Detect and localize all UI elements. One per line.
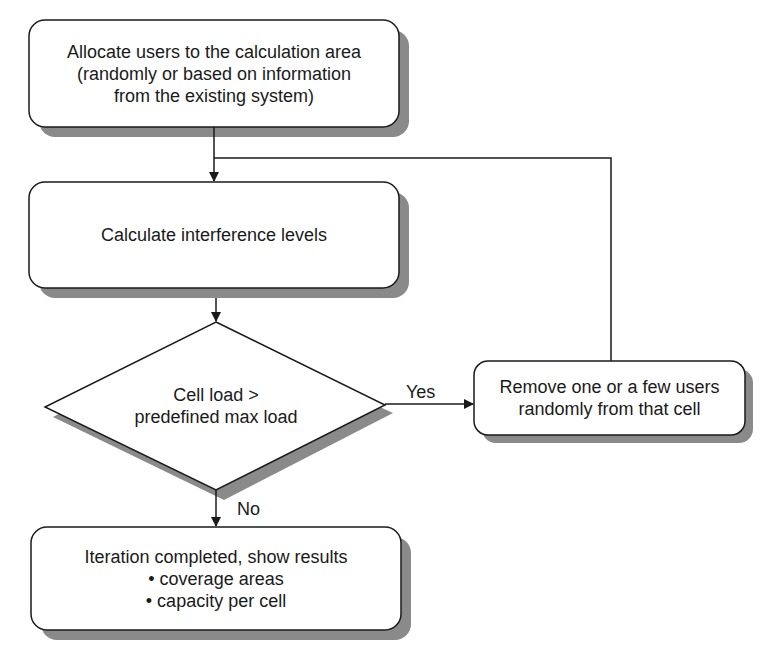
allocate-node: Allocate users to the calculation area (… — [29, 20, 399, 127]
results-bullet-coverage: • coverage areas — [148, 568, 283, 590]
results-title: Iteration completed, show results — [84, 546, 347, 568]
decision-line-2: predefined max load — [134, 406, 297, 428]
remove-line-1: Remove one or a few users — [499, 376, 719, 398]
decision-node: Cell load > predefined max load — [80, 372, 352, 440]
allocate-line-3: from the existing system) — [114, 85, 314, 107]
results-bullet-capacity: • capacity per cell — [146, 590, 286, 612]
decision-line-1: Cell load > — [173, 384, 259, 406]
remove-line-2: randomly from that cell — [518, 398, 700, 420]
yes-label: Yes — [406, 382, 435, 402]
remove-node: Remove one or a few users randomly from … — [474, 361, 745, 435]
allocate-line-1: Allocate users to the calculation area — [67, 41, 361, 63]
allocate-line-2: (randomly or based on information — [77, 63, 351, 85]
no-label: No — [237, 499, 260, 519]
calculate-node: Calculate interference levels — [29, 182, 399, 288]
results-node: Iteration completed, show results • cove… — [31, 527, 401, 630]
calculate-line-1: Calculate interference levels — [101, 224, 327, 246]
